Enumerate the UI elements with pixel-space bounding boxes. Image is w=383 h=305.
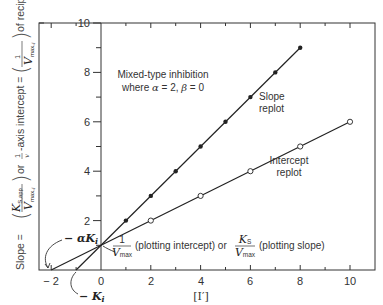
y-ticks [39, 23, 101, 245]
x-tick-label: 6 [247, 275, 253, 287]
svg-text:1: 1 [14, 55, 21, 59]
x-tick-label: 8 [297, 275, 303, 287]
svg-text:Vmax,i: Vmax,i [22, 187, 36, 210]
arrow-neg-ki [71, 272, 78, 294]
svg-text:): ) [8, 174, 33, 183]
x-tick-label: 4 [198, 275, 204, 287]
svg-text:1: 1 [14, 154, 21, 158]
frac-denominator: Vmax [112, 246, 133, 259]
y-tick-label: 4 [84, 165, 90, 177]
y-tick-label: 2 [84, 215, 90, 227]
ks-denominator: Vmax [235, 246, 256, 259]
x-tick-label: 10 [344, 275, 356, 287]
annotation-condition: where α = 2, β = 0 [121, 82, 204, 93]
plotting-slope-text: (plotting slope) [259, 240, 325, 251]
intercept-replot-label: replot [276, 167, 301, 178]
neg-alpha-ki-label: − αKi [64, 232, 98, 246]
intercept-replot-points [148, 119, 352, 223]
svg-text:of reciprocal plot: of reciprocal plot [14, 0, 26, 32]
x-axis-label: [I′] [193, 290, 208, 303]
plotting-intercept-text: (plotting intercept) or [135, 240, 227, 251]
svg-text:-axis intercept =: -axis intercept = [14, 77, 26, 151]
x-tick-label: 2 [148, 275, 154, 287]
y-tick-label: 8 [84, 66, 90, 78]
x-tick-label: 0 [98, 275, 104, 287]
frac-numerator: 1 [119, 234, 125, 245]
svg-text:or: or [14, 164, 26, 174]
svg-text:Slope =: Slope = [14, 234, 26, 270]
svg-text:Vmax,i: Vmax,i [22, 42, 36, 65]
y-tick-label: 6 [84, 116, 90, 128]
y-tick-label: 10 [78, 17, 90, 29]
slope-replot-label: Slope [259, 91, 285, 102]
arrow-neg-alpha-ki [45, 240, 62, 268]
chart: − 2 0 2 4 6 8 10 2 4 6 8 10 [I′] Mixed-t… [0, 0, 383, 305]
svg-text:v: v [23, 154, 31, 158]
annotation-title: Mixed-type inhibition [117, 69, 208, 80]
svg-text:(: ( [8, 65, 33, 74]
slope-replot-label: replot [259, 103, 284, 114]
neg-ki-label: − Ki [79, 290, 105, 304]
ks-numerator: KS [238, 233, 252, 246]
x-tick-label: − 2 [43, 275, 59, 287]
intercept-replot-label: Intercept [270, 155, 309, 166]
y-axis-label: Slope = ( KS,app Vmax,i ) or 1 v -axis i… [8, 0, 36, 270]
